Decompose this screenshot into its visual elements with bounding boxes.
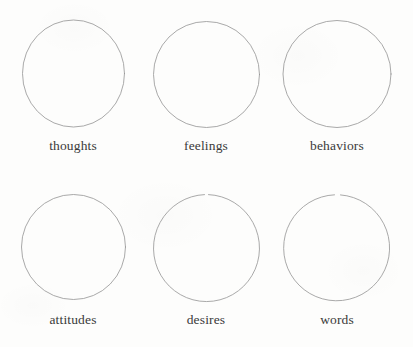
circle-wrap-feelings <box>141 18 271 133</box>
circle-cell-behaviors: behaviors <box>272 18 402 154</box>
circle-label-words: words <box>272 311 402 328</box>
circle-cell-feelings: feelings <box>141 18 271 154</box>
circle-outline-icon <box>8 18 138 133</box>
circle-label-behaviors: behaviors <box>272 137 402 154</box>
circle-cell-attitudes: attitudes <box>8 192 138 328</box>
circles-grid: thoughts feelings behaviors <box>0 0 413 347</box>
circle-wrap-desires <box>141 192 271 307</box>
circle-outline-icon <box>272 192 402 307</box>
circle-outline-icon <box>141 192 271 307</box>
circle-label-thoughts: thoughts <box>8 137 138 154</box>
page-canvas: thoughts feelings behaviors <box>0 0 413 347</box>
circle-outline-icon <box>141 18 271 133</box>
circle-label-feelings: feelings <box>141 137 271 154</box>
circle-label-attitudes: attitudes <box>8 311 138 328</box>
circle-cell-thoughts: thoughts <box>8 18 138 154</box>
circle-outline-icon <box>272 18 402 133</box>
circle-wrap-behaviors <box>272 18 402 133</box>
circle-label-desires: desires <box>141 311 271 328</box>
circle-wrap-thoughts <box>8 18 138 133</box>
circle-cell-desires: desires <box>141 192 271 328</box>
circle-cell-words: words <box>272 192 402 328</box>
circle-wrap-words <box>272 192 402 307</box>
circle-wrap-attitudes <box>8 192 138 307</box>
circle-outline-icon <box>8 192 138 307</box>
